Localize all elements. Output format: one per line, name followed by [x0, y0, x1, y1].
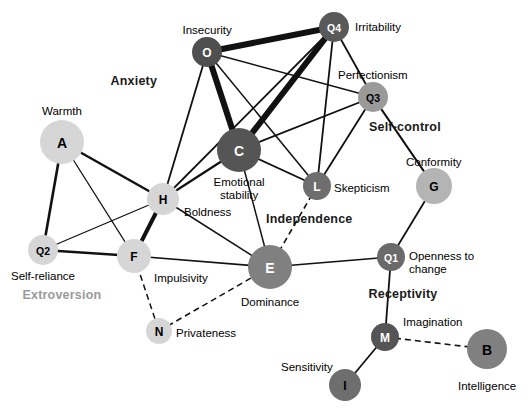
- node-letter-Q1: Q1: [384, 252, 398, 264]
- node-M[interactable]: M: [371, 323, 399, 351]
- node-Q2[interactable]: Q2: [28, 235, 58, 265]
- node-G[interactable]: G: [416, 168, 452, 204]
- trait-label-L: Skepticism: [334, 182, 390, 195]
- node-letter-C: C: [234, 143, 244, 159]
- node-letter-A: A: [57, 135, 67, 151]
- diagram-canvas: AOQ4Q3CHLGQ2FEQ1NMBI WarmthInsecurityIrr…: [0, 0, 530, 420]
- factor-label-self-control: Self-control: [369, 120, 441, 134]
- trait-label-Q4: Irritability: [355, 21, 401, 34]
- node-letter-F: F: [130, 250, 137, 264]
- factor-label-receptivity: Receptivity: [369, 287, 438, 301]
- trait-label-N: Privateness: [176, 327, 236, 340]
- node-letter-N: N: [155, 325, 164, 339]
- trait-label-C: Emotionalstability: [214, 176, 265, 201]
- node-A[interactable]: A: [40, 120, 84, 164]
- node-Q1[interactable]: Q1: [377, 243, 405, 271]
- node-L[interactable]: L: [303, 172, 331, 200]
- node-letter-O: O: [202, 46, 211, 60]
- node-I[interactable]: I: [329, 369, 361, 401]
- trait-label-Q2: Self-reliance: [11, 270, 75, 283]
- trait-label-M: Imagination: [403, 316, 462, 329]
- factor-label-independence: Independence: [266, 212, 352, 226]
- trait-label-Q3: Perfectionism: [338, 69, 408, 82]
- node-letter-B: B: [482, 342, 492, 358]
- node-Q4[interactable]: Q4: [319, 12, 349, 42]
- trait-label-O: Insecurity: [183, 24, 232, 37]
- node-F[interactable]: F: [117, 239, 151, 273]
- node-O[interactable]: O: [192, 37, 222, 67]
- trait-label-H: Boldness: [184, 206, 231, 219]
- node-letter-I: I: [343, 379, 346, 393]
- node-letter-G: G: [429, 180, 438, 194]
- trait-label-A: Warmth: [42, 105, 82, 118]
- node-letter-L: L: [313, 180, 320, 194]
- node-N[interactable]: N: [146, 318, 172, 344]
- node-E[interactable]: E: [248, 245, 292, 289]
- trait-label-Q1: Openness tochange: [409, 250, 474, 275]
- node-letter-M: M: [380, 331, 390, 345]
- factor-label-anxiety: Anxiety: [111, 74, 158, 88]
- node-letter-H: H: [159, 193, 168, 207]
- node-letter-Q4: Q4: [327, 22, 341, 34]
- trait-label-G: Conformity: [406, 156, 462, 169]
- factor-label-extroversion: Extroversion: [23, 288, 102, 302]
- node-letter-Q3: Q3: [366, 92, 380, 104]
- node-B[interactable]: B: [467, 329, 507, 369]
- node-letter-E: E: [265, 260, 274, 276]
- network-svg: AOQ4Q3CHLGQ2FEQ1NMBI: [0, 0, 530, 420]
- node-H[interactable]: H: [147, 183, 179, 215]
- trait-label-I: Sensitivity: [281, 361, 333, 374]
- node-C[interactable]: C: [217, 128, 261, 172]
- node-letter-Q2: Q2: [36, 245, 50, 257]
- node-Q3[interactable]: Q3: [358, 82, 388, 112]
- trait-label-B: Intelligence: [458, 380, 516, 393]
- trait-label-F: Impulsivity: [154, 272, 208, 285]
- trait-label-E: Dominance: [241, 296, 299, 309]
